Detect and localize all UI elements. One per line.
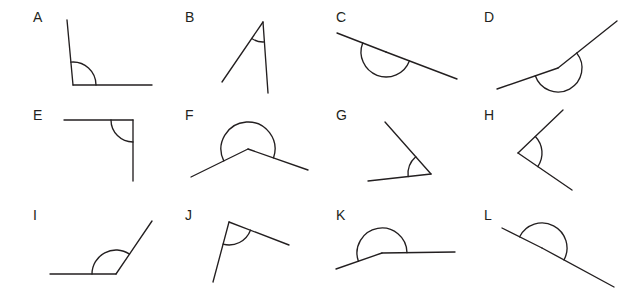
angle-arm-second bbox=[558, 21, 617, 68]
figure-label-f: F bbox=[185, 108, 194, 122]
angle-arc-marker bbox=[535, 136, 542, 166]
angle-figure-a bbox=[67, 20, 152, 85]
angle-figure-e bbox=[64, 120, 133, 181]
angle-arm-second bbox=[116, 221, 152, 274]
angle-figure-d bbox=[497, 21, 617, 92]
figure-label-l: L bbox=[484, 208, 492, 222]
angle-arc-marker bbox=[520, 223, 567, 260]
angle-arc-marker bbox=[252, 39, 265, 42]
figure-label-a: A bbox=[33, 10, 43, 24]
angle-arc-marker bbox=[408, 157, 416, 177]
angle-arm-first bbox=[222, 22, 263, 82]
angle-figure-c bbox=[337, 33, 457, 79]
angle-arm-first bbox=[502, 228, 542, 248]
figure-label-j: J bbox=[185, 208, 192, 222]
angle-figure-j bbox=[213, 222, 289, 282]
angle-arm-second bbox=[542, 248, 614, 287]
angle-arm-first bbox=[191, 149, 248, 177]
angle-arc-marker bbox=[535, 53, 582, 92]
angle-figures-canvas bbox=[0, 0, 636, 295]
angle-arm-second bbox=[263, 22, 268, 93]
angle-figure-h bbox=[518, 110, 572, 190]
angle-arm-second bbox=[229, 222, 289, 245]
angle-arm-second bbox=[248, 149, 308, 170]
figure-label-d: D bbox=[484, 10, 494, 24]
figure-label-c: C bbox=[336, 10, 346, 24]
angle-figure-g bbox=[368, 122, 431, 181]
angles-worksheet: ABCDEFGHIJKL bbox=[0, 0, 636, 295]
angle-arm-first bbox=[497, 68, 558, 89]
angle-figure-l bbox=[502, 223, 614, 287]
angle-arm-first bbox=[67, 20, 73, 85]
angle-arm-first bbox=[385, 122, 431, 174]
angle-arm-second bbox=[518, 153, 572, 190]
angle-arc-marker bbox=[223, 230, 250, 245]
angle-figure-i bbox=[50, 221, 152, 274]
figure-label-g: G bbox=[336, 108, 347, 122]
figure-label-e: E bbox=[33, 108, 43, 122]
angle-arm-second bbox=[368, 174, 431, 181]
figure-label-h: H bbox=[484, 108, 494, 122]
angle-arc-marker bbox=[361, 43, 409, 77]
angle-arc-marker bbox=[71, 62, 96, 85]
angle-arm-second bbox=[382, 252, 455, 253]
angle-figure-f bbox=[191, 122, 308, 177]
angle-arm-first bbox=[213, 222, 229, 282]
angle-figure-b bbox=[222, 22, 268, 93]
figure-label-b: B bbox=[185, 10, 195, 24]
angle-arc-marker bbox=[357, 228, 407, 261]
angle-arc-marker bbox=[111, 120, 133, 142]
figure-label-i: I bbox=[33, 208, 37, 222]
figure-label-k: K bbox=[336, 208, 346, 222]
angle-figure-k bbox=[336, 228, 455, 269]
